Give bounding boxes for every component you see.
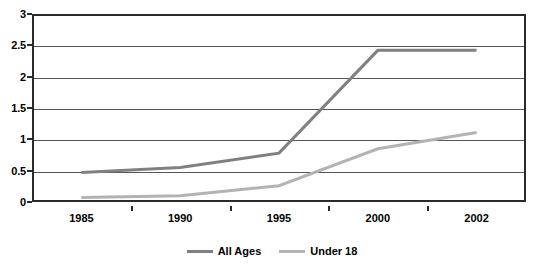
y-axis-tick-label: 2 [20, 71, 26, 83]
series-line [81, 50, 476, 172]
x-axis-tick-mark [230, 206, 232, 211]
series-line [81, 132, 476, 197]
legend-label: Under 18 [310, 245, 357, 257]
legend-entry: All Ages [187, 245, 262, 257]
y-axis-tick-label: 1.5 [11, 102, 26, 114]
chart-legend: All AgesUnder 18 [0, 240, 544, 262]
x-axis-tick-label: 1985 [69, 212, 93, 224]
series-layer [32, 14, 526, 202]
x-axis-tick-label: 2000 [366, 212, 390, 224]
y-axis: 32.521.510.50 [0, 0, 30, 215]
x-axis-tick-label: 1990 [168, 212, 192, 224]
line-chart: 32.521.510.50 19851990199520002002 All A… [0, 0, 544, 273]
x-axis: 19851990199520002002 [32, 206, 526, 230]
y-axis-tick-label: 0 [20, 196, 26, 208]
y-axis-tick-label: 2.5 [11, 39, 26, 51]
legend-swatch-icon [279, 250, 305, 253]
x-axis-tick-label: 1995 [267, 212, 291, 224]
x-axis-tick-label: 2002 [464, 212, 488, 224]
legend-entry: Under 18 [279, 245, 357, 257]
y-axis-tick-label: 1 [20, 133, 26, 145]
x-axis-tick-mark [427, 206, 429, 211]
legend-swatch-icon [187, 250, 213, 253]
x-axis-tick-mark [131, 206, 133, 211]
y-axis-tick-label: 3 [20, 8, 26, 20]
x-axis-tick-mark [328, 206, 330, 211]
legend-label: All Ages [218, 245, 262, 257]
y-axis-tick-label: 0.5 [11, 165, 26, 177]
